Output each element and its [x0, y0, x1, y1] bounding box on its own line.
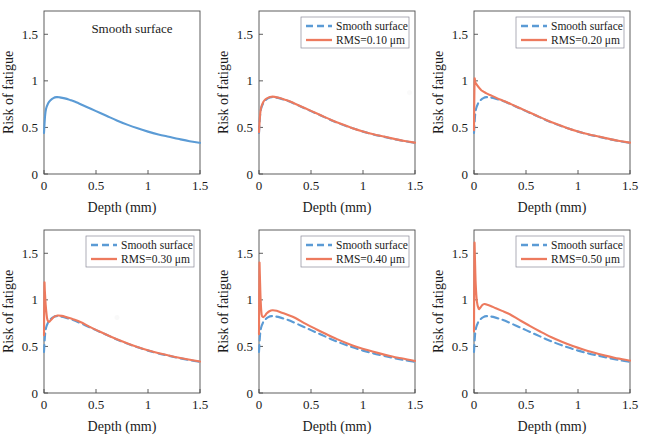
y-axis-title: Risk of fatigue [1, 51, 16, 134]
y-tick-label: 0 [32, 386, 39, 401]
x-tick-label: 0 [41, 178, 48, 193]
x-tick-label: 1.5 [407, 397, 423, 412]
x-axis-title: Depth (mm) [303, 419, 372, 435]
y-tick-label: 0.5 [22, 339, 38, 354]
x-tick-label: 0 [471, 178, 478, 193]
y-tick-label: 0.5 [22, 120, 38, 135]
y-tick-label: 1 [32, 292, 39, 307]
x-tick-label: 0 [256, 397, 263, 412]
subplot-2: 00.511.500.511.5Depth (mm)Risk of fatigu… [215, 0, 430, 220]
legend-label: RMS=0.50 μm [551, 253, 620, 266]
y-tick-label: 0.5 [237, 120, 253, 135]
y-tick-label: 0 [247, 167, 254, 182]
x-tick-label: 0.5 [303, 397, 319, 412]
legend-label: RMS=0.10 μm [336, 34, 405, 47]
y-tick-label: 1.5 [452, 246, 468, 261]
y-tick-label: 1.5 [237, 246, 253, 261]
x-axis-title: Depth (mm) [518, 419, 587, 435]
x-tick-label: 1.5 [192, 397, 208, 412]
x-tick-label: 0 [256, 178, 263, 193]
x-axis-title: Depth (mm) [88, 200, 157, 216]
y-tick-label: 1.5 [22, 246, 38, 261]
legend-label: Smooth surface [336, 20, 408, 32]
y-tick-label: 0.5 [237, 339, 253, 354]
x-tick-label: 1.5 [407, 178, 423, 193]
x-axis-title: Depth (mm) [303, 200, 372, 216]
x-tick-label: 1 [360, 178, 367, 193]
x-tick-label: 0 [471, 397, 478, 412]
x-tick-label: 0.5 [88, 178, 104, 193]
y-tick-label: 0 [462, 386, 469, 401]
legend-label: Smooth surface [551, 20, 623, 32]
x-tick-label: 0 [41, 397, 48, 412]
y-axis-title: Risk of fatigue [1, 270, 16, 353]
legend-label: RMS=0.20 μm [551, 34, 620, 47]
x-tick-label: 1.5 [622, 397, 638, 412]
x-tick-label: 1.5 [192, 178, 208, 193]
x-tick-label: 0.5 [518, 178, 534, 193]
y-tick-label: 1 [462, 73, 469, 88]
y-tick-label: 1.5 [237, 27, 253, 42]
y-tick-label: 1 [462, 292, 469, 307]
legend-label: Smooth surface [121, 239, 193, 251]
y-axis-title: Risk of fatigue [216, 270, 231, 353]
subplot-6: 00.511.500.511.5Depth (mm)Risk of fatigu… [430, 219, 645, 439]
legend-label: RMS=0.40 μm [336, 253, 405, 266]
x-tick-label: 1 [575, 397, 582, 412]
x-tick-label: 0.5 [88, 397, 104, 412]
x-tick-label: 1 [360, 397, 367, 412]
x-tick-label: 1 [145, 178, 152, 193]
x-axis-title: Depth (mm) [88, 419, 157, 435]
y-tick-label: 0 [247, 386, 254, 401]
x-axis-title: Depth (mm) [518, 200, 587, 216]
y-axis-title: Risk of fatigue [431, 51, 446, 134]
x-tick-label: 1.5 [622, 178, 638, 193]
y-tick-label: 0 [462, 167, 469, 182]
subplot-5: 00.511.500.511.5Depth (mm)Risk of fatigu… [215, 219, 430, 439]
y-tick-label: 1.5 [452, 27, 468, 42]
subplot-4: 00.511.500.511.5Depth (mm)Risk of fatigu… [0, 219, 215, 439]
figure-panel-grid: 00.511.500.511.5Depth (mm)Risk of fatigu… [0, 0, 650, 441]
legend-label: RMS=0.30 μm [121, 253, 190, 266]
x-tick-label: 0.5 [303, 178, 319, 193]
y-tick-label: 0.5 [452, 339, 468, 354]
subplot-title: Smooth surface [91, 21, 172, 36]
y-axis-title: Risk of fatigue [431, 270, 446, 353]
y-tick-label: 1 [247, 73, 254, 88]
x-tick-label: 1 [575, 178, 582, 193]
y-tick-label: 1.5 [22, 27, 38, 42]
x-tick-label: 1 [145, 397, 152, 412]
y-tick-label: 1 [247, 292, 254, 307]
legend-label: Smooth surface [336, 239, 408, 251]
y-tick-label: 0 [32, 167, 39, 182]
y-axis-title: Risk of fatigue [216, 51, 231, 134]
legend-label: Smooth surface [551, 239, 623, 251]
y-tick-label: 1 [32, 73, 39, 88]
subplot-1: 00.511.500.511.5Depth (mm)Risk of fatigu… [0, 0, 215, 220]
x-tick-label: 0.5 [518, 397, 534, 412]
subplot-3: 00.511.500.511.5Depth (mm)Risk of fatigu… [430, 0, 645, 220]
y-tick-label: 0.5 [452, 120, 468, 135]
